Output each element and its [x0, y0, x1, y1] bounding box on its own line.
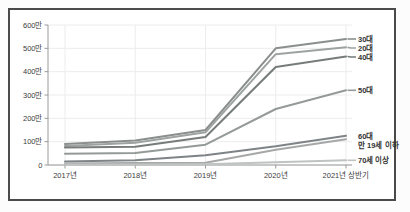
x-axis-label: 2017년 — [53, 170, 77, 180]
series-label-30대: 30대 — [358, 34, 373, 44]
y-axis-label: 600만 — [23, 21, 43, 30]
screenshot-canvas: 600만500만400만300만200만100만02017년2018년2019년… — [0, 0, 410, 212]
x-axis-label: 2019년 — [194, 170, 218, 180]
x-axis-label: 2018년 — [123, 170, 147, 180]
series-label-만 19세 이하: 만 19세 이하 — [358, 140, 399, 150]
y-axis-label: 0 — [38, 161, 42, 170]
series-label-50대: 50대 — [358, 85, 373, 95]
y-axis-label: 400만 — [23, 67, 43, 76]
y-axis-label: 200만 — [23, 114, 43, 123]
series-label-40대: 40대 — [358, 52, 373, 62]
series-leader-20대 — [348, 47, 357, 48]
age-group-line-chart: 600만500만400만300만200만100만02017년2018년2019년… — [0, 0, 410, 212]
series-label-20대: 20대 — [358, 43, 373, 53]
y-axis-label: 500만 — [23, 44, 43, 53]
y-axis-label: 300만 — [23, 91, 43, 100]
y-axis-label: 100만 — [23, 137, 43, 146]
x-axis-label: 2020년 — [264, 170, 288, 180]
series-label-70세 이상: 70세 이상 — [358, 155, 389, 165]
x-axis-label: 2021년 상반기 — [323, 170, 370, 180]
series-label-60대: 60대 — [358, 131, 373, 141]
series-leader-40대 — [348, 57, 357, 58]
